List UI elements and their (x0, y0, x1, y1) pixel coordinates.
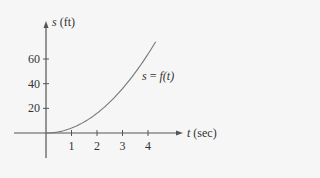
y-tick-label: 20 (28, 101, 40, 115)
y-axis-label: s (ft) (52, 15, 75, 29)
y-tick-label: 40 (28, 77, 40, 91)
y-tick-label: 60 (28, 52, 40, 66)
x-axis-label: t (sec) (187, 126, 217, 140)
x-tick-label: 1 (69, 139, 75, 153)
x-tick-label: 4 (145, 139, 151, 153)
x-tick-label: 2 (94, 139, 100, 153)
chart: 1234204060s (ft)t (sec)s = f(t) (0, 0, 320, 178)
chart-svg: 1234204060s (ft)t (sec)s = f(t) (0, 0, 320, 178)
curve-s-equals-f-of-t (46, 42, 156, 133)
x-axis-arrow-icon (176, 131, 183, 136)
curve (46, 42, 156, 133)
y-axis-arrow-icon (44, 21, 49, 28)
curve-label: s = f(t) (142, 69, 174, 83)
x-tick-label: 3 (120, 139, 126, 153)
